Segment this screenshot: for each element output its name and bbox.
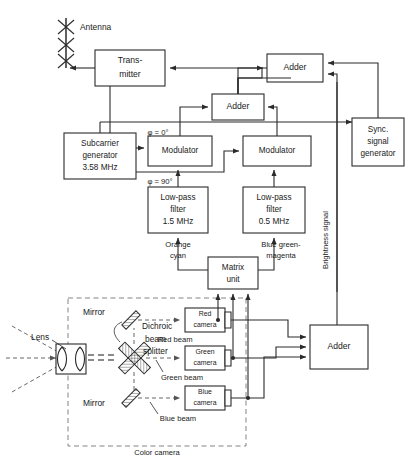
sync-generator-label-2: signal <box>367 137 389 146</box>
matrix-unit-block <box>208 257 258 289</box>
green-camera-label-2: camera <box>194 359 217 366</box>
brightness-signal-label: Brightness signal <box>321 211 330 269</box>
lens-icon <box>56 344 86 374</box>
diagram-canvas: Antenna Trans- mitter Adder Adder Adder … <box>0 0 408 461</box>
red-beam-caption: Red beam <box>157 335 192 344</box>
lpf-left-label-1: Low-pass <box>160 193 195 202</box>
adder-top-label: Adder <box>284 62 307 72</box>
mirror-bottom-label: Mirror <box>83 398 105 408</box>
lpf-right-label-1: Low-pass <box>256 193 291 202</box>
green-camera-label-1: Green <box>195 348 214 355</box>
phase-zero-label: φ = 0° <box>148 128 169 137</box>
red-camera-label-2: camera <box>194 321 217 328</box>
mirror-top-label: Mirror <box>83 307 105 317</box>
transmitter-label-2: mitter <box>119 69 141 79</box>
orange-cyan-label-1: Orange <box>165 240 190 249</box>
lens-label: Lens <box>31 332 49 342</box>
phase-ninety-label: φ = 90° <box>147 177 172 186</box>
mirror-top-icon <box>122 311 140 329</box>
beam-lens-to-splitter <box>88 355 114 360</box>
color-camera-caption: Color camera <box>134 448 180 457</box>
subcarrier-generator-label-2: generator <box>82 151 117 160</box>
matrix-unit-label-2: unit <box>226 275 240 284</box>
lpf-left-label-2: filter <box>170 205 186 214</box>
dichroic-label-3: splitter <box>143 346 168 356</box>
modulator-right-label: Modulator <box>259 146 296 155</box>
sync-generator-label-1: Sync. <box>368 125 388 134</box>
dichroic-label-1: Dichroic <box>142 321 172 331</box>
lpf-right-label-2: filter <box>266 205 282 214</box>
antenna-label: Antenna <box>80 22 112 32</box>
adder-mid-label: Adder <box>227 101 250 111</box>
blue-green-magenta-label-1: Blue green- <box>261 240 301 249</box>
blue-beam-caption: Blue beam <box>160 414 196 423</box>
subcarrier-generator-label-1: Subcarrier <box>81 139 119 148</box>
block-diagram-svg: Antenna Trans- mitter Adder Adder Adder … <box>0 0 408 461</box>
lpf-left-label-3: 1.5 MHz <box>163 217 193 226</box>
blue-camera-label-1: Blue <box>198 388 212 395</box>
adder-bottom-label: Adder <box>328 341 351 351</box>
sync-generator-label-3: generator <box>360 149 395 158</box>
antenna-icon <box>58 18 74 68</box>
modulator-left-label: Modulator <box>162 146 199 155</box>
red-camera-label-1: Red <box>199 310 212 317</box>
blue-camera-label-2: camera <box>194 399 217 406</box>
subcarrier-generator-label-3: 3.58 MHz <box>82 163 117 172</box>
matrix-unit-label-1: Matrix <box>222 263 244 272</box>
lpf-right-label-3: 0.5 MHz <box>259 217 289 226</box>
green-beam-caption: Green beam <box>161 373 203 382</box>
orange-cyan-label-2: cyan <box>170 251 186 260</box>
transmitter-label-1: Trans- <box>118 55 143 65</box>
blue-green-magenta-label-2: magenta <box>266 251 296 260</box>
mirror-bottom-icon <box>122 389 140 407</box>
